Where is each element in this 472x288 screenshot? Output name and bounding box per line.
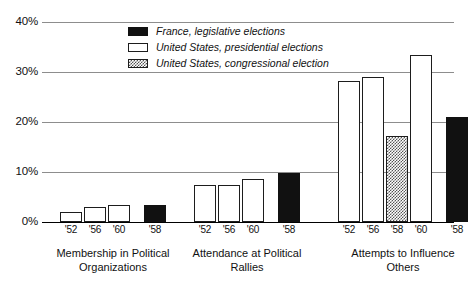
bar-g3-us_presidential-56 bbox=[362, 77, 384, 222]
legend-label-france: France, legislative elections bbox=[156, 25, 285, 37]
group-label-line: Attempts to Influence bbox=[323, 246, 472, 260]
bar-g2-us_presidential-60 bbox=[242, 179, 264, 223]
x-tick-label-g2-58: '58 bbox=[272, 224, 306, 235]
y-tick-label-10pct: 10% bbox=[0, 165, 38, 177]
group-label-line: Attendance at Political bbox=[167, 246, 327, 260]
y-tick-label-40pct: 40% bbox=[0, 15, 38, 27]
legend-label-us-congressional: United States, congressional election bbox=[156, 57, 329, 69]
x-tick-label-g2-60: '60 bbox=[236, 224, 270, 235]
group-label-3: Attempts to InfluenceOthers bbox=[323, 246, 472, 274]
bar-g3-us_congressional-58 bbox=[386, 136, 408, 223]
gridline-40pct bbox=[42, 22, 454, 23]
bar-g1-us_presidential-60 bbox=[108, 205, 130, 223]
gridline-30pct bbox=[42, 72, 454, 73]
bar-g2-france-58 bbox=[278, 173, 300, 222]
bar-g1-us_presidential-52 bbox=[60, 212, 82, 222]
legend-swatch-france-icon bbox=[128, 27, 148, 36]
y-tick-label-20pct: 20% bbox=[0, 115, 38, 127]
x-tick-label-g1-60: '60 bbox=[102, 224, 136, 235]
bar-g2-us_presidential-56 bbox=[218, 185, 240, 223]
y-tick-label-0pct: 0% bbox=[0, 215, 38, 227]
legend: France, legislative elections United Sta… bbox=[128, 24, 368, 72]
x-tick-label-g3-58: '58 bbox=[440, 224, 472, 235]
legend-item-france: France, legislative elections bbox=[128, 24, 368, 38]
bar-g1-us_presidential-56 bbox=[84, 207, 106, 222]
legend-item-us-congressional: United States, congressional election bbox=[128, 56, 368, 70]
bar-g1-france-58 bbox=[144, 205, 166, 223]
group-label-line: Rallies bbox=[167, 260, 327, 274]
bar-g3-france-58 bbox=[446, 117, 468, 222]
legend-label-us-presidential: United States, presidential elections bbox=[156, 41, 323, 53]
bar-g2-us_presidential-52 bbox=[194, 185, 216, 223]
group-label-line: Others bbox=[323, 260, 472, 274]
legend-swatch-us-congressional-icon bbox=[128, 59, 148, 68]
bar-g3-us_presidential-60 bbox=[410, 55, 432, 223]
group-label-2: Attendance at PoliticalRallies bbox=[167, 246, 327, 274]
x-tick-label-g1-58: '58 bbox=[138, 224, 172, 235]
gridline-20pct bbox=[42, 122, 454, 123]
y-tick-label-30pct: 30% bbox=[0, 65, 38, 77]
x-tick-label-g3-60: '60 bbox=[404, 224, 438, 235]
legend-item-us-presidential: United States, presidential elections bbox=[128, 40, 368, 54]
bar-g3-us_presidential-52 bbox=[338, 81, 360, 223]
y-axis-labels: 0%10%20%30%40% bbox=[0, 0, 42, 288]
legend-swatch-us-presidential-icon bbox=[128, 43, 148, 52]
